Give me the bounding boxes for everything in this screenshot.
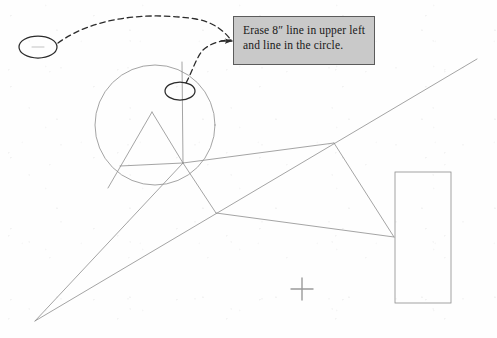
leader-from-upper-left-ellipse: [58, 16, 231, 43]
circle-interior-circled-line-ellipse[interactable]: [165, 82, 195, 100]
leader-from-circle-ellipse: [186, 40, 231, 83]
registration-crosshair: [291, 278, 313, 300]
note-line-2: and line in the circle.: [243, 38, 367, 53]
base-geometry-group: [35, 59, 477, 321]
hub-left-stub: [120, 163, 183, 166]
drawing-sheet: Erase 8″ line in upper left and line in …: [0, 0, 497, 338]
lower-hub-to-rect: [216, 213, 394, 237]
erase-instruction-note[interactable]: Erase 8″ line in upper left and line in …: [233, 16, 375, 65]
hub-upper-to-lower: [183, 163, 216, 213]
hub-to-mid-right: [183, 143, 334, 163]
circle-vertical-line: [182, 62, 183, 163]
mid-right-to-rect: [334, 143, 394, 237]
main-circle: [95, 65, 215, 185]
right-rectangle: [395, 172, 451, 303]
apex-right-leg: [152, 112, 183, 163]
note-line-1: Erase 8″ line in upper left: [243, 23, 367, 38]
apex-left-leg: [108, 112, 152, 188]
